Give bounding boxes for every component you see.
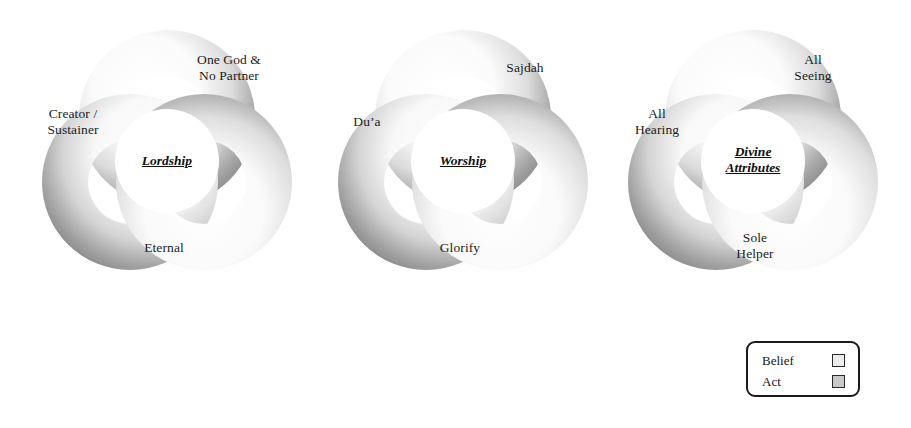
trefoil-diagram-lordship: One God & No Partner Creator / Sustainer…	[22, 16, 312, 306]
lobe-label-left: Creator / Sustainer	[18, 106, 128, 138]
legend-item-act[interactable]: Act	[748, 371, 858, 392]
trefoil-diagram-divine-attributes: All Seeing All Hearing Sole Helper Divin…	[608, 16, 898, 306]
lobe-label-top-right: One God & No Partner	[170, 52, 288, 84]
center-label: Divine Attributes	[693, 144, 813, 176]
lobe-label-bottom: Glorify	[400, 240, 520, 256]
legend-item-belief[interactable]: Belief	[748, 350, 858, 371]
lobe-label-bottom: Sole Helper	[700, 230, 810, 262]
legend-label-belief: Belief	[762, 353, 794, 369]
lobe-label-left: Du’a	[312, 114, 422, 130]
legend-label-act: Act	[762, 374, 781, 390]
diagram-canvas: One God & No Partner Creator / Sustainer…	[0, 0, 911, 428]
center-label: Lordship	[107, 153, 227, 169]
center-label: Worship	[403, 153, 523, 169]
lobe-label-bottom: Eternal	[104, 240, 224, 256]
legend-box: Belief Act	[746, 341, 860, 397]
trefoil-diagram-worship: Sajdah Du’a Glorify Worship	[318, 16, 608, 306]
legend-swatch-belief	[832, 354, 845, 367]
lobe-label-top-right: Sajdah	[466, 60, 584, 76]
legend-swatch-act	[832, 375, 845, 388]
lobe-label-top-right: All Seeing	[758, 52, 868, 84]
lobe-label-left: All Hearing	[602, 106, 712, 138]
